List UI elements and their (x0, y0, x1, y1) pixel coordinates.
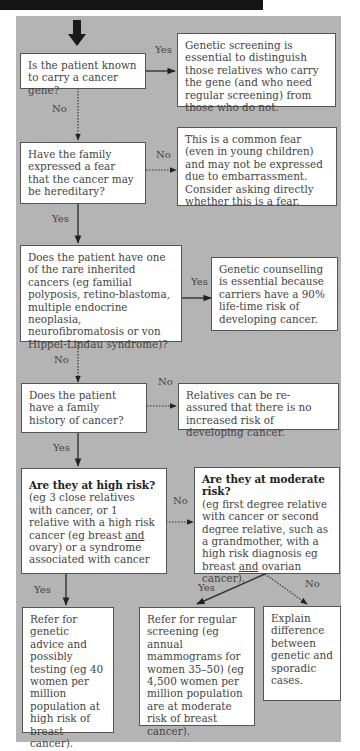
question-text: Have the family expressed a fear that th… (28, 148, 134, 197)
outcome-text: Refer for genetic advice and possibly te… (30, 613, 103, 749)
question-text: Does the patient have a family history o… (29, 389, 124, 426)
underlined-and: and (239, 560, 259, 572)
edge-label-no: No (173, 495, 188, 506)
edge-label-no: No (158, 376, 173, 387)
question-text-cont: ovary) or a syndrome associated with can… (29, 541, 150, 565)
answer-text: Genetic counselling is essential because… (219, 263, 325, 325)
edge-label-yes: Yes (198, 582, 215, 593)
outcome-genetic-advice: Refer for genetic advice and possibly te… (22, 607, 114, 733)
underlined-and: and (125, 529, 145, 541)
edge-label-yes: Yes (34, 584, 51, 595)
question-title: Are they at moderate risk? (202, 473, 332, 498)
answer-genetic-screening: Genetic screening is essential to distin… (177, 33, 336, 107)
question-family-history: Does the patient have a family history o… (21, 383, 147, 433)
question-moderate-risk: Are they at moderate risk? (eg first deg… (194, 467, 340, 574)
question-rare-inherited-cancer: Does the patient have one of the rare in… (20, 245, 182, 342)
answer-common-fear: This is a common fear (even in young chi… (177, 127, 337, 206)
answer-text: Genetic screening is essential to distin… (185, 39, 319, 113)
question-high-risk: Are they at high risk? (eg 3 close relat… (21, 468, 167, 574)
edge-label-no: No (156, 149, 171, 160)
answer-text: This is a common fear (even in young chi… (185, 133, 323, 207)
outcome-regular-screening: Refer for regular screening (eg annual m… (139, 607, 255, 726)
outcome-explain-difference: Explain difference between genetic and s… (263, 606, 341, 701)
edge-label-yes: Yes (52, 213, 69, 224)
question-family-fear: Have the family expressed a fear that th… (20, 142, 146, 204)
edge-label-yes: Yes (191, 276, 208, 287)
question-title: Are they at high risk? (29, 479, 159, 491)
outcome-text: Refer for regular screening (eg annual m… (147, 613, 244, 737)
question-text: Does the patient have one of the rare in… (28, 251, 170, 350)
edge-label-no: No (54, 354, 69, 365)
edge-label-no: No (305, 578, 320, 589)
answer-reassure-relatives: Relatives can be re-assured that there i… (178, 383, 339, 430)
edge-label-yes: Yes (53, 442, 70, 453)
outcome-text: Explain difference between genetic and s… (271, 612, 333, 686)
question-known-cancer-gene: Is the patient known to carry a cancer g… (20, 53, 146, 89)
edge-label-no: No (52, 103, 67, 114)
answer-genetic-counselling: Genetic counselling is essential because… (211, 257, 338, 331)
edge-label-yes: Yes (155, 44, 172, 55)
top-black-bar (0, 0, 263, 10)
